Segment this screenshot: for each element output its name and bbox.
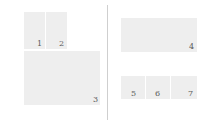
panel-7-label: 7: [188, 90, 193, 98]
panel-3-label: 3: [93, 96, 98, 104]
panel-4[interactable]: [121, 18, 197, 52]
panel-6-label: 6: [155, 90, 160, 98]
panel-3[interactable]: [24, 51, 100, 105]
column-divider: [107, 5, 108, 120]
panel-2-label: 2: [59, 40, 64, 48]
panel-7[interactable]: [171, 76, 197, 99]
panel-5-label: 5: [131, 90, 136, 98]
panel-4-label: 4: [189, 43, 194, 51]
figure-canvas: 1 2 3 4 5 6 7: [0, 0, 210, 125]
panel-1-label: 1: [37, 40, 42, 48]
